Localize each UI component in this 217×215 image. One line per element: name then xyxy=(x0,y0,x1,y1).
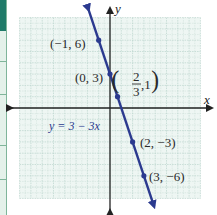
y-axis-label: y xyxy=(113,1,121,16)
equation-label: y = 3 − 3x xyxy=(48,119,101,133)
x-axis-label: x xyxy=(203,92,210,107)
data-point xyxy=(130,139,135,144)
data-point xyxy=(141,173,146,178)
fraction-denominator: 3 xyxy=(133,84,140,99)
data-point xyxy=(115,94,120,99)
right-paren: ) xyxy=(151,65,159,94)
point-y-value: ,1 xyxy=(141,77,151,92)
point-label-3-neg6: (3, −6) xyxy=(149,169,185,184)
coordinate-plane: x y (−1, 6) (0, 3) ( 2 3 ,1 ) (2, −3) (3… xyxy=(0,0,217,215)
point-label-0-3: (0, 3) xyxy=(75,70,103,85)
point-label-neg1-6: (−1, 6) xyxy=(50,36,86,51)
fraction-numerator: 2 xyxy=(133,69,140,84)
point-label-2-neg3: (2, −3) xyxy=(140,135,176,150)
left-paren: ( xyxy=(112,65,120,94)
data-point xyxy=(96,38,101,43)
